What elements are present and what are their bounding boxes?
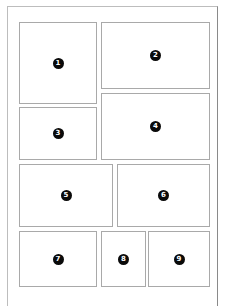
- panel-number-badge: 6: [158, 190, 169, 201]
- panel-number-badge: 5: [61, 190, 72, 201]
- panel-1: 1: [19, 22, 97, 104]
- panel-number-badge: 7: [53, 254, 64, 265]
- panel-number-badge: 3: [53, 128, 64, 139]
- panel-3: 3: [19, 107, 97, 160]
- panel-number-badge: 9: [174, 254, 185, 265]
- panel-number-badge: 8: [118, 254, 129, 265]
- panel-8: 8: [101, 231, 146, 287]
- panel-4: 4: [101, 93, 210, 160]
- panel-2: 2: [101, 22, 210, 89]
- panel-9: 9: [148, 231, 210, 287]
- panel-7: 7: [19, 231, 97, 287]
- panel-6: 6: [117, 164, 210, 227]
- panel-5: 5: [19, 164, 113, 227]
- panel-number-badge: 4: [150, 121, 161, 132]
- panel-number-badge: 2: [150, 50, 161, 61]
- panel-number-badge: 1: [53, 58, 64, 69]
